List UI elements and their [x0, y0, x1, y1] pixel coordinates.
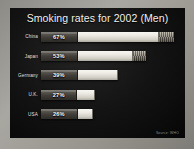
- bar-value-label: 27%: [53, 92, 65, 98]
- cigarette-filter-segment: 39%: [41, 70, 78, 80]
- slide-frame: Smoking rates for 2002 (Men) China67%Jap…: [0, 0, 194, 149]
- bar-chart-plot-area: China67%Japan53%Germany39%U.K.27%USA26%: [10, 27, 185, 124]
- cigarette-ash-tip: [133, 51, 147, 61]
- cigarette-filter-segment: 26%: [41, 109, 78, 119]
- bar-category-label: Japan: [10, 54, 41, 59]
- bar-value-label: 53%: [53, 53, 65, 59]
- cigarette-bar: 26%: [41, 109, 93, 119]
- cigarette-paper-segment: [78, 70, 119, 80]
- slide-panel: Smoking rates for 2002 (Men) China67%Jap…: [10, 8, 185, 138]
- bar-category-label: Germany: [10, 73, 41, 78]
- bar-value-label: 67%: [53, 34, 65, 40]
- cigarette-paper-segment: [78, 51, 133, 61]
- bar-category-label: China: [10, 34, 41, 39]
- cigarette-bar: 27%: [41, 90, 95, 100]
- cigarette-bar: 67%: [41, 32, 174, 42]
- cigarette-filter-segment: 67%: [41, 32, 78, 42]
- source-note: Source: WHO: [156, 131, 179, 135]
- bar-value-label: 26%: [53, 111, 65, 117]
- cigarette-bar: 53%: [41, 51, 146, 61]
- bar-row: U.K.27%: [10, 85, 185, 104]
- cigarette-bar: 39%: [41, 70, 118, 80]
- cigarette-ash-tip: [159, 32, 174, 42]
- cigarette-filter-segment: 53%: [41, 51, 78, 61]
- bar-value-label: 39%: [53, 72, 65, 78]
- cigarette-paper-segment: [78, 32, 160, 42]
- cigarette-filter-segment: 27%: [41, 90, 77, 100]
- cigarette-paper-segment: [78, 109, 93, 119]
- bar-row: China67%: [10, 27, 185, 46]
- bar-category-label: U.K.: [10, 92, 41, 97]
- chart-title: Smoking rates for 2002 (Men): [10, 12, 185, 24]
- cigarette-paper-segment: [77, 90, 94, 100]
- bar-category-label: USA: [10, 112, 41, 117]
- bar-row: Germany39%: [10, 66, 185, 85]
- bar-row: Japan53%: [10, 46, 185, 65]
- bar-row: USA26%: [10, 105, 185, 124]
